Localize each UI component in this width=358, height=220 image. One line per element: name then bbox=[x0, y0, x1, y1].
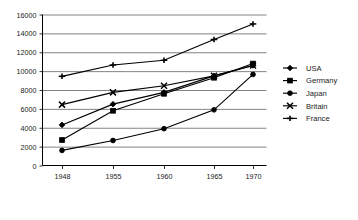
x-tick-label: 1960 bbox=[157, 172, 173, 181]
x-tick-label: 1948 bbox=[55, 172, 71, 181]
x-tick-label: 1970 bbox=[246, 172, 262, 181]
line-chart: 0200040006000800010000120001400016000 19… bbox=[0, 0, 358, 220]
legend-label: Germany bbox=[306, 76, 337, 85]
data-point-marker bbox=[288, 91, 293, 96]
legend-label: Britain bbox=[306, 102, 328, 111]
x-tick-label: 1965 bbox=[207, 172, 223, 181]
y-tick-label: 0 bbox=[33, 162, 37, 171]
data-point-marker bbox=[162, 126, 167, 131]
legend-label: USA bbox=[306, 64, 323, 73]
y-tick-label: 8000 bbox=[21, 86, 37, 95]
data-point-marker bbox=[60, 148, 65, 153]
data-point-marker bbox=[212, 107, 217, 112]
y-tick-label: 2000 bbox=[21, 143, 37, 152]
y-tick-label: 14000 bbox=[17, 29, 37, 38]
legend-label: Japan bbox=[306, 89, 327, 98]
data-point-marker bbox=[162, 91, 167, 96]
data-point-marker bbox=[60, 138, 65, 143]
y-tick-label: 4000 bbox=[21, 124, 37, 133]
y-tick-label: 6000 bbox=[21, 105, 37, 114]
data-point-marker bbox=[288, 78, 293, 83]
data-point-marker bbox=[251, 72, 256, 77]
chart-canvas: 0200040006000800010000120001400016000 19… bbox=[0, 0, 358, 220]
data-point-marker bbox=[111, 108, 116, 113]
legend-label: France bbox=[306, 114, 330, 123]
y-tick-label: 12000 bbox=[17, 48, 37, 57]
data-point-marker bbox=[111, 138, 116, 143]
chart-background bbox=[0, 0, 358, 220]
y-tick-label: 10000 bbox=[17, 67, 37, 76]
y-tick-label: 16000 bbox=[17, 11, 37, 20]
x-tick-label: 1955 bbox=[106, 172, 122, 181]
